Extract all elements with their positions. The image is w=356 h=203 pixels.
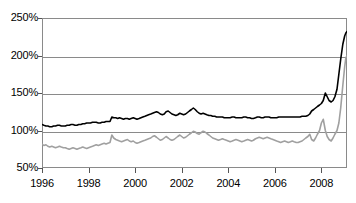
x-tick-label-1996: 1996 xyxy=(22,177,62,189)
x-tick-mark-2004 xyxy=(228,168,229,173)
series-lines xyxy=(42,18,347,168)
y-tick-label-50: 50% xyxy=(0,161,38,173)
chart-container: 250%200%150%100%50% 19961998200020022004… xyxy=(0,0,356,203)
x-tick-mark-1996 xyxy=(42,168,43,173)
x-tick-mark-1998 xyxy=(89,168,90,173)
x-tick-mark-2000 xyxy=(135,168,136,173)
series-black xyxy=(42,32,347,127)
x-tick-label-2002: 2002 xyxy=(162,177,202,189)
x-tick-label-2008: 2008 xyxy=(301,177,341,189)
x-tick-mark-2008 xyxy=(321,168,322,173)
y-tick-label-250: 250% xyxy=(0,11,38,23)
x-tick-label-2000: 2000 xyxy=(115,177,155,189)
x-tick-label-2006: 2006 xyxy=(255,177,295,189)
y-tick-label-200: 200% xyxy=(0,49,38,61)
x-tick-mark-2002 xyxy=(182,168,183,173)
y-tick-label-100: 100% xyxy=(0,124,38,136)
x-tick-mark-2006 xyxy=(275,168,276,173)
series-gray xyxy=(42,56,347,150)
x-tick-label-2004: 2004 xyxy=(208,177,248,189)
y-tick-label-150: 150% xyxy=(0,86,38,98)
x-tick-label-1998: 1998 xyxy=(69,177,109,189)
